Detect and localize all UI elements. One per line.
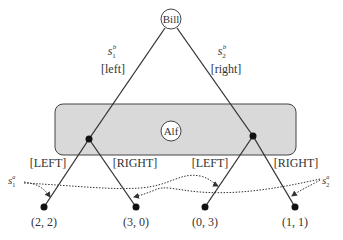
bill-action-left: [left]: [101, 62, 125, 76]
alf-decision-node-left: [86, 136, 93, 143]
alf-decision-node-right: [250, 133, 257, 140]
terminal-node-1: [41, 204, 48, 211]
payoff-4: (1, 1): [282, 215, 308, 229]
game-tree-diagram: Bill Alf s1b [left] s2b [right] [LEFT] […: [0, 0, 343, 240]
s1a-path-to-left-2: [24, 175, 218, 188]
bill-strategy-1: s1b: [108, 43, 117, 60]
alf-action-right-2: [RIGHT]: [274, 156, 319, 170]
alf-action-left-1: [LEFT]: [30, 156, 67, 170]
alf-strategy-2: s2a: [322, 174, 329, 188]
payoff-1: (2, 2): [31, 215, 57, 229]
terminal-node-4: [292, 204, 299, 211]
s2a-path-to-right-2: [134, 179, 320, 197]
alf-action-right-1: [RIGHT]: [113, 156, 158, 170]
alf-action-left-2: [LEFT]: [192, 156, 229, 170]
bill-strategy-2: s2b: [218, 43, 227, 60]
terminal-node-3: [202, 204, 209, 211]
payoff-2: (3, 0): [123, 215, 149, 229]
alf-label: Alf: [164, 125, 179, 137]
terminal-node-2: [133, 204, 140, 211]
payoff-3: (0, 3): [192, 215, 218, 229]
bill-label: Bill: [163, 13, 180, 25]
s2a-path-to-right: [292, 180, 320, 196]
alf-strategy-1: s1a: [8, 174, 15, 188]
bill-action-right: [right]: [211, 62, 242, 76]
